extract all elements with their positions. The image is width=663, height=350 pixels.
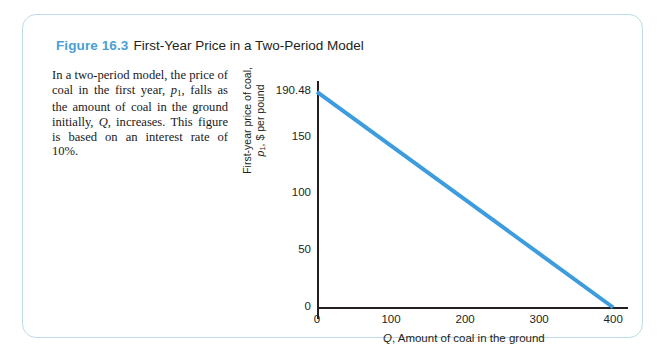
caption-line-4b: , increases. [108,115,166,129]
y-axis-tick-label: 100 [191,186,311,198]
figure-title-bar: Figure 16.3First-Year Price in a Two-Per… [56,37,364,54]
x-axis-tick-label: 300 [509,313,569,325]
chart-plot-area: First-year price of coal, p1, $ per poun… [233,70,663,345]
caption-var-q: Q [99,115,108,129]
x-axis-tick-label: 100 [361,313,421,325]
figure-caption: In a two-period model, the price of coal… [52,68,228,159]
price-line-series [317,92,613,308]
figure-frame: Figure 16.3First-Year Price in a Two-Per… [22,14,643,338]
y-axis-tick-label: 50 [191,243,311,255]
x-axis-tick-label: 200 [435,313,495,325]
y-axis-tick-label: 0 [191,300,311,312]
y-axis-tick-label: 190.48 [191,84,311,96]
x-axis-tick-label: 400 [583,313,643,325]
caption-line-1: In a two-period model, the price [52,68,214,82]
figure-number: Figure 16.3 [56,38,128,53]
y-axis-tick-label: 150 [191,130,311,142]
x-axis-tick-label: 0 [287,313,347,325]
